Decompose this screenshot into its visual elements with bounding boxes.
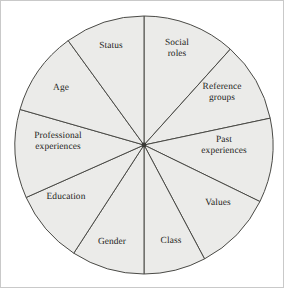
wheel-diagram (1, 1, 284, 288)
wheel-hub (142, 143, 147, 148)
perception-wheel-figure: Social rolesReference groupsPast experie… (0, 0, 284, 288)
